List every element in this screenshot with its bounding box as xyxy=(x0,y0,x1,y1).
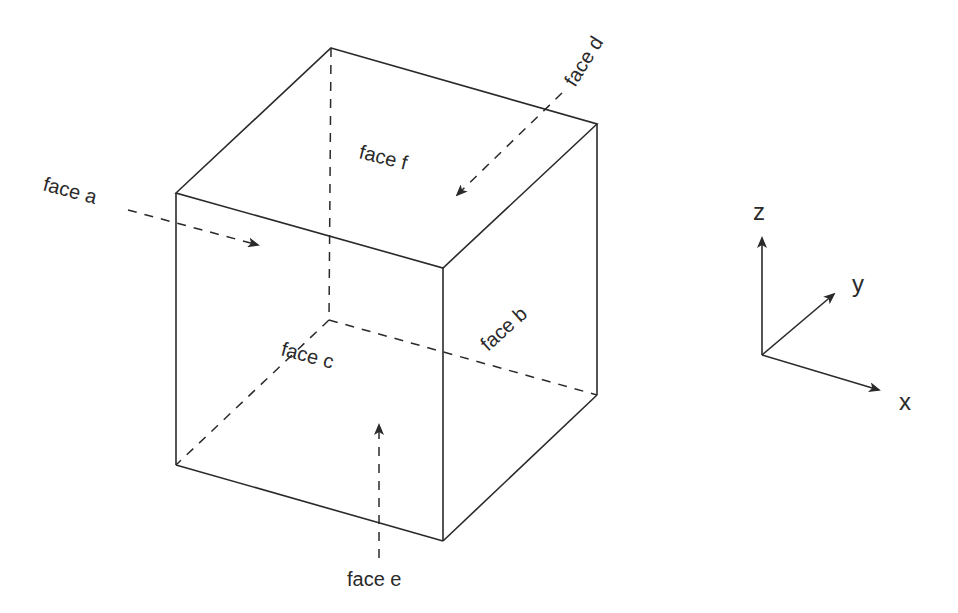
label-z-axis: z xyxy=(753,198,765,225)
cube-diagram: face a face b face c face d face e face … xyxy=(0,0,958,613)
label-face-b: face b xyxy=(476,302,531,355)
axis-triad: z y x xyxy=(753,198,911,415)
hidden-edge-bottom-left xyxy=(176,320,329,465)
hidden-edge-bottom-back xyxy=(329,320,597,395)
label-x-axis: x xyxy=(899,388,911,415)
label-face-e: face e xyxy=(347,568,401,590)
x-axis-arrow xyxy=(762,355,879,390)
label-face-d: face d xyxy=(560,32,608,90)
edge-bottom-right xyxy=(443,395,597,541)
arrow-face-d xyxy=(457,93,562,195)
cube-visible-edges xyxy=(176,48,597,541)
arrow-face-a xyxy=(128,210,258,245)
y-axis-arrow xyxy=(762,294,834,355)
label-face-a: face a xyxy=(41,173,100,209)
cube-hidden-edges xyxy=(176,48,597,465)
hidden-edge-back-vertical xyxy=(329,48,331,320)
label-y-axis: y xyxy=(852,270,864,297)
label-face-f: face f xyxy=(357,141,410,174)
edge-bottom-front xyxy=(176,465,443,541)
label-face-c: face c xyxy=(279,338,336,373)
